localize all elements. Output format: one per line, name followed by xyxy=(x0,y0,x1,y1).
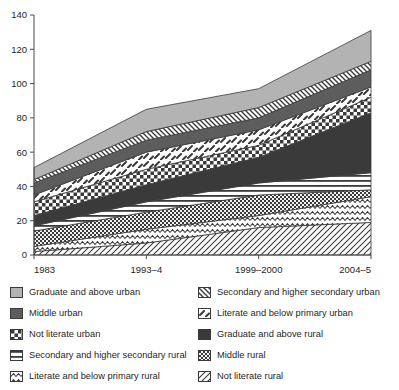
legend-column-left: Graduate and above urbanMiddle urbanNot … xyxy=(10,282,205,387)
legend-item: Not literate rural xyxy=(198,366,398,386)
legend-item: Not literate urban xyxy=(10,324,205,344)
legend-item: Secondary and higher secondary urban xyxy=(198,282,398,302)
legend-swatch-icon xyxy=(198,287,211,298)
legend-label: Not literate rural xyxy=(217,371,283,382)
legend-label: Secondary and higher secondary urban xyxy=(217,287,380,298)
legend-item: Graduate and above rural xyxy=(198,324,398,344)
legend-item: Literate and below primary rural xyxy=(10,366,205,386)
legend-item: Middle rural xyxy=(198,345,398,365)
y-tick-label: 100 xyxy=(11,78,27,89)
legend-swatch-icon xyxy=(198,308,211,319)
y-tick-label: 0 xyxy=(22,249,27,260)
x-axis: 19831993–41999–20002004–5 xyxy=(34,255,371,275)
legend-label: Middle rural xyxy=(217,350,266,361)
legend-item: Graduate and above urban xyxy=(10,282,205,302)
legend-label: Literate and below primary rural xyxy=(29,371,160,382)
legend-label: Graduate and above urban xyxy=(29,287,140,298)
x-tick-label: 1999–2000 xyxy=(235,264,283,275)
y-tick-label: 60 xyxy=(16,147,27,158)
y-tick-label: 20 xyxy=(16,215,27,226)
legend-swatch-icon xyxy=(198,329,211,340)
legend-item: Literate and below primary urban xyxy=(198,303,398,323)
legend-swatch-icon xyxy=(10,308,23,319)
x-tick-label: 1993–4 xyxy=(130,264,162,275)
x-tick-label: 1983 xyxy=(34,264,55,275)
legend-label: Middle urban xyxy=(29,308,83,319)
legend-label: Literate and below primary urban xyxy=(217,308,353,319)
legend-label: Secondary and higher secondary rural xyxy=(29,350,187,361)
legend-column-right: Secondary and higher secondary urbanLite… xyxy=(198,282,398,387)
y-axis: 020406080100120140 xyxy=(11,9,34,260)
legend-label: Not literate urban xyxy=(29,329,100,340)
legend-swatch-icon xyxy=(10,287,23,298)
y-tick-label: 140 xyxy=(11,9,27,20)
y-tick-label: 40 xyxy=(16,181,27,192)
chart-legend: Graduate and above urbanMiddle urbanNot … xyxy=(0,282,399,390)
legend-label: Graduate and above rural xyxy=(217,329,323,340)
legend-swatch-icon xyxy=(198,371,211,382)
legend-item: Middle urban xyxy=(10,303,205,323)
stacked-area-chart: 020406080100120140 19831993–41999–200020… xyxy=(0,0,399,282)
area-bands xyxy=(34,30,371,255)
legend-swatch-icon xyxy=(10,350,23,361)
y-tick-label: 80 xyxy=(16,112,27,123)
legend-swatch-icon xyxy=(198,350,211,361)
legend-swatch-icon xyxy=(10,329,23,340)
legend-swatch-icon xyxy=(10,371,23,382)
legend-item: Secondary and higher secondary rural xyxy=(10,345,205,365)
x-tick-label: 2004–5 xyxy=(339,264,371,275)
y-tick-label: 120 xyxy=(11,44,27,55)
chart-container: 020406080100120140 19831993–41999–200020… xyxy=(0,0,399,390)
